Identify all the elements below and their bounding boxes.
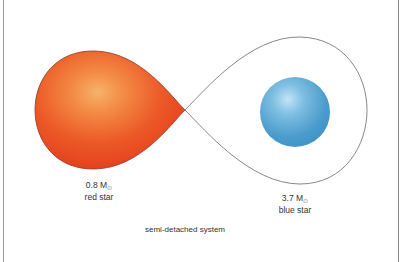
red-star-label: 0.8 M⊙ red star (74, 180, 124, 203)
red-star-name: red star (74, 192, 124, 203)
red-star-mass: 0.8 M⊙ (74, 180, 124, 192)
blue-star-name: blue star (270, 205, 320, 216)
solar-mass-symbol: ⊙ (107, 185, 112, 191)
blue-star-mass: 3.7 M⊙ (270, 193, 320, 205)
diagram-caption: semi-detached system (130, 224, 240, 235)
blue-star (260, 77, 330, 147)
solar-mass-symbol: ⊙ (303, 198, 308, 204)
blue-star-label: 3.7 M⊙ blue star (270, 193, 320, 216)
red-star-lobe (35, 51, 185, 169)
